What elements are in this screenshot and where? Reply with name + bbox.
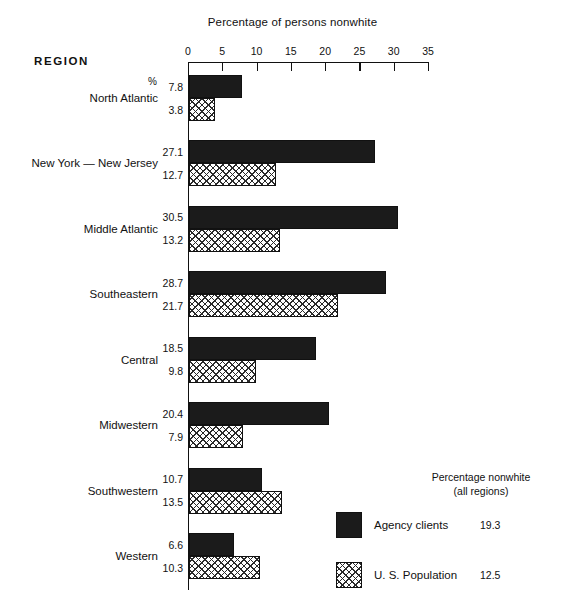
bar-agency-clients: 28.7 (189, 271, 386, 294)
x-tick (428, 62, 429, 71)
region-axis-header: REGION (34, 55, 89, 67)
category-label: New York — New Jersey (31, 157, 158, 169)
chart-title: Percentage of persons nonwhite (0, 16, 573, 28)
x-tick-label: 15 (285, 45, 297, 57)
legend-row-agency-clients: Agency clients 19.3 (336, 512, 568, 538)
legend-swatch-crosshatch-icon (336, 562, 362, 588)
legend-title: Percentage nonwhite (all regions) (394, 470, 568, 498)
category-label: Midwestern (99, 419, 158, 431)
bar-value-label: 12.7 (163, 169, 183, 181)
bar-group: Middle Atlantic30.513.2 (188, 206, 428, 252)
bar-group: Southeastern28.721.7 (188, 271, 428, 317)
x-tick (394, 62, 395, 71)
bar-value-label: 27.1 (163, 146, 183, 158)
bar-value-label: 7.8 (168, 81, 183, 93)
bar-us-population: 7.9 (189, 425, 243, 448)
bar-value-label: 18.5 (163, 342, 183, 354)
bar-us-population: 13.5 (189, 491, 282, 514)
bar-value-label: 6.6 (168, 539, 183, 551)
x-tick (188, 62, 189, 71)
chart-title-text: Percentage of persons nonwhite (208, 16, 377, 28)
bar-value-label: 28.7 (163, 277, 183, 289)
bar-value-label: 30.5 (163, 211, 183, 223)
x-tick-label: 25 (354, 45, 366, 57)
bar-value-label: 10.7 (163, 473, 183, 485)
bar-us-population: 3.8 (189, 98, 215, 121)
x-tick-label: 35 (422, 45, 434, 57)
legend-title-line-2: (all regions) (394, 484, 568, 498)
x-tick-label: 5 (219, 45, 225, 57)
bar-value-label: 13.2 (163, 234, 183, 246)
legend-label-agency-clients: Agency clients (374, 519, 480, 531)
bar-group: New York — New Jersey27.112.7 (188, 140, 428, 186)
bar-us-population: 12.7 (189, 163, 276, 186)
bar-value-label: 13.5 (163, 496, 183, 508)
bar-group: North Atlantic7.83.8 (188, 75, 428, 121)
bar-agency-clients: 6.6 (189, 533, 234, 556)
bar-agency-clients: 7.8 (189, 75, 242, 98)
chart-root: Percentage of persons nonwhite REGION % … (0, 0, 573, 607)
legend-title-line-1: Percentage nonwhite (394, 470, 568, 484)
x-tick (291, 62, 292, 71)
bar-group: Central18.59.8 (188, 337, 428, 383)
x-tick-label: 20 (319, 45, 331, 57)
bar-value-label: 21.7 (163, 300, 183, 312)
legend-label-us-population: U. S. Population (374, 569, 480, 581)
category-label: Southwestern (88, 485, 158, 497)
x-tick-label: 30 (388, 45, 400, 57)
percent-symbol-header: % (148, 76, 157, 87)
bar-value-label: 10.3 (163, 562, 183, 574)
bar-group: Midwestern20.47.9 (188, 402, 428, 448)
x-tick (222, 62, 223, 71)
category-label: Middle Atlantic (84, 223, 158, 235)
x-tick (359, 62, 360, 71)
legend-value-us-population: 12.5 (480, 569, 500, 581)
bar-agency-clients: 18.5 (189, 337, 316, 360)
legend-swatch-solid-icon (336, 512, 362, 538)
x-tick (257, 62, 258, 71)
x-tick (325, 62, 326, 71)
bar-agency-clients: 10.7 (189, 468, 262, 491)
category-label: Western (115, 550, 158, 562)
category-label: Southeastern (90, 288, 158, 300)
bar-us-population: 13.2 (189, 229, 280, 252)
legend: Percentage nonwhite (all regions) Agency… (336, 470, 568, 588)
bar-agency-clients: 27.1 (189, 140, 375, 163)
x-tick-label: 0 (185, 45, 191, 57)
bar-value-label: 20.4 (163, 408, 183, 420)
x-tick-label: 10 (251, 45, 263, 57)
legend-row-us-population: U. S. Population 12.5 (336, 562, 568, 588)
category-label: Central (121, 354, 158, 366)
bar-agency-clients: 30.5 (189, 206, 398, 229)
bar-agency-clients: 20.4 (189, 402, 329, 425)
legend-value-agency-clients: 19.3 (480, 519, 500, 531)
x-axis-line (188, 62, 428, 63)
bar-us-population: 10.3 (189, 556, 260, 579)
bar-value-label: 3.8 (168, 104, 183, 116)
bar-value-label: 7.9 (168, 431, 183, 443)
bar-us-population: 21.7 (189, 294, 338, 317)
bar-us-population: 9.8 (189, 360, 256, 383)
bar-value-label: 9.8 (168, 365, 183, 377)
category-label: North Atlantic (90, 92, 158, 104)
